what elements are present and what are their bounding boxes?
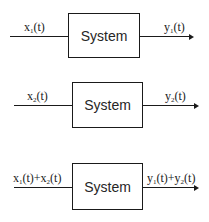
input-line-3 xyxy=(14,187,72,188)
input-line-1 xyxy=(10,36,68,37)
input-label-1: x1(t) xyxy=(24,21,45,35)
output-line-3 xyxy=(143,187,194,188)
system-block-2: System xyxy=(72,82,143,128)
output-label-3: y1(t)+y2(t) xyxy=(147,172,195,186)
system-block-1: System xyxy=(68,13,140,58)
output-label-1: y1(t) xyxy=(164,21,185,35)
input-label-3: x1(t)+x2(t) xyxy=(13,172,61,186)
system-block-3: System xyxy=(72,163,143,210)
output-line-1 xyxy=(140,36,189,37)
system-block-label-1: System xyxy=(81,28,128,44)
input-line-2 xyxy=(14,105,72,106)
input-label-2: x2(t) xyxy=(27,90,48,104)
system-block-label-3: System xyxy=(84,179,131,195)
output-line-2 xyxy=(143,105,194,106)
system-block-label-2: System xyxy=(84,97,131,113)
output-label-2: y2(t) xyxy=(165,90,186,104)
system-additivity-diagram: x1(t) System y1(t) x2(t) System y2(t) x1… xyxy=(0,0,209,222)
arrow-head-icon-2 xyxy=(194,103,199,109)
arrow-head-icon-1 xyxy=(189,34,194,40)
